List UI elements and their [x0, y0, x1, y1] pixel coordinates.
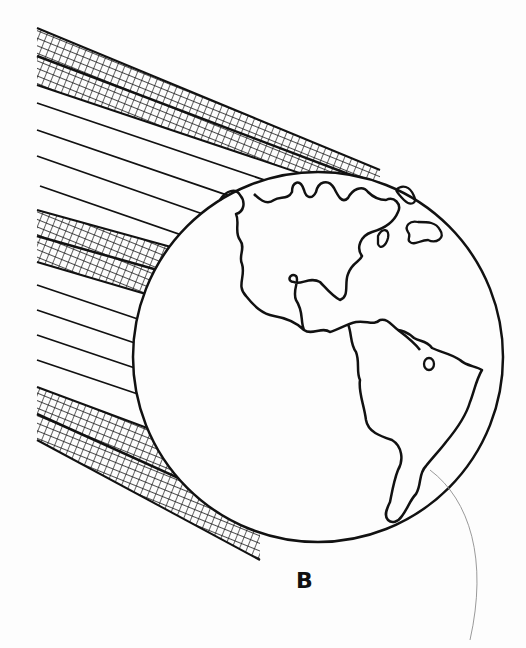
diagram-canvas [0, 0, 526, 648]
figure-label: B [296, 568, 313, 593]
